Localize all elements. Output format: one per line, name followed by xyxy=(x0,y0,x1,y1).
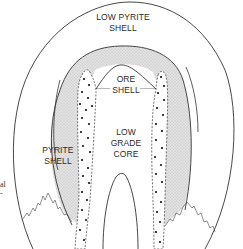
label-pyrite-shell: PYRITE SHELL xyxy=(38,145,78,167)
label-low-pyrite-shell: LOW PYRITE SHELL xyxy=(88,12,158,34)
left-cut-text: al - xyxy=(0,180,6,198)
alteration-zoning-diagram xyxy=(0,0,243,249)
label-low-grade-core: LOW GRADE CORE xyxy=(101,127,151,160)
label-ore-shell: ORE SHELL xyxy=(106,74,146,96)
